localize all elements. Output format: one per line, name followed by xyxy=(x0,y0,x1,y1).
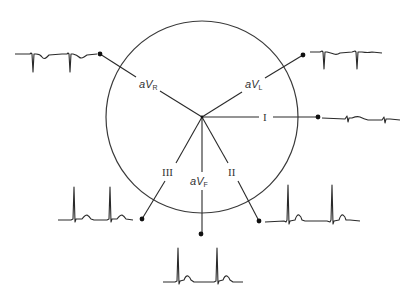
axis-avl-inner xyxy=(202,92,242,117)
axis-avl-outer xyxy=(265,55,303,78)
dot-avl xyxy=(301,53,306,58)
axis-ii-outer xyxy=(238,181,259,221)
dot-iii xyxy=(140,217,145,222)
center-point xyxy=(201,116,204,119)
label-i: I xyxy=(263,111,267,123)
axis-avr-outer xyxy=(100,54,136,77)
hexaxial-diagram: aVR aVL I II aVF III xyxy=(0,0,414,300)
label-avf: aVF xyxy=(190,175,208,188)
lead-labels: aVR aVL I II aVF III xyxy=(139,78,267,188)
dot-avr xyxy=(98,52,103,57)
dot-i xyxy=(316,115,321,120)
label-iii: III xyxy=(162,166,173,178)
tracing-ii xyxy=(265,185,360,224)
label-avl: aVL xyxy=(245,78,262,91)
tracing-avf xyxy=(163,248,243,284)
ecg-tracings xyxy=(15,51,400,284)
axis-iii-inner xyxy=(176,117,202,163)
tracing-avr xyxy=(15,53,97,72)
tracing-iii xyxy=(58,187,133,222)
lead-axes xyxy=(100,54,318,234)
dot-ii xyxy=(257,219,262,224)
dot-avf xyxy=(199,232,204,237)
axis-iii-outer xyxy=(142,181,165,219)
label-ii: II xyxy=(228,166,236,178)
axis-ii-inner xyxy=(202,117,228,163)
tracing-i xyxy=(322,116,400,123)
tracing-avl xyxy=(310,51,382,69)
axis-avr-inner xyxy=(160,91,202,117)
label-avr: aVR xyxy=(139,78,158,91)
